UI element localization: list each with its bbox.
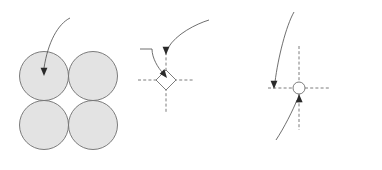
pore-b-diamond (156, 70, 176, 90)
arrowhead-decreased-porosity (296, 94, 303, 102)
pore-c-round (293, 82, 305, 94)
leader-pore (140, 49, 163, 73)
particle-a-top-right (69, 52, 118, 101)
panel-b-group (138, 47, 194, 113)
leader-neck (168, 20, 209, 48)
particle-a-bottom-left (20, 101, 69, 150)
arrowhead-neck (163, 47, 170, 55)
figure-canvas (0, 0, 382, 170)
sintering-stages-figure (0, 0, 382, 170)
particle-a-bottom-right (69, 101, 118, 150)
panel-a-group (20, 52, 118, 150)
panel-c-group (268, 46, 330, 130)
leader-increased-necking (275, 12, 294, 82)
leader-decreased-porosity (276, 100, 297, 140)
arrowhead-increased-necking (271, 81, 278, 89)
